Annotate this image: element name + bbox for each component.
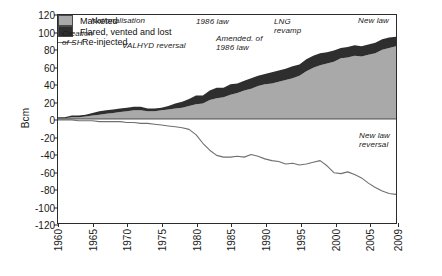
x-tick-label: 2009 <box>393 229 404 251</box>
x-tick-label: 1965 <box>88 229 99 251</box>
annotation-new-law: New law <box>358 16 389 25</box>
y-tick-label: -20 <box>41 132 55 143</box>
y-tick-label: -40 <box>41 150 55 161</box>
x-tick-mark <box>162 223 163 227</box>
x-tick-label: 1960 <box>53 229 64 251</box>
x-tick-label: 1970 <box>122 229 133 251</box>
y-tick-label: -60 <box>41 167 55 178</box>
x-tick-mark <box>231 223 232 227</box>
y-tick-label: 60 <box>44 62 55 73</box>
figure: Bcm 120100806040200-20-40-60-80-100-120 … <box>0 0 442 276</box>
x-tick-label: 1985 <box>226 229 237 251</box>
annotation-lng-revamp: LNG revamp <box>274 17 301 36</box>
annotation-creation-of-sh: Creation of SH <box>62 29 93 48</box>
y-tick-label: 100 <box>38 27 55 38</box>
x-tick-label: 1990 <box>261 229 272 251</box>
x-tick-mark <box>93 223 94 227</box>
y-tick-label: -120 <box>35 220 55 231</box>
annotation-nationalisation: Nationalisation <box>91 16 145 25</box>
y-tick-label: -100 <box>35 202 55 213</box>
line-re-injected <box>58 120 396 195</box>
x-tick-mark <box>370 223 371 227</box>
y-tick-label: -80 <box>41 185 55 196</box>
x-tick-label: 1980 <box>192 229 203 251</box>
y-tick-label: 120 <box>38 10 55 21</box>
annotation-valhyd-reversal: VALHYD reversal <box>122 41 186 50</box>
x-tick-mark <box>336 223 337 227</box>
annotation-1986-law: 1986 law <box>196 17 229 26</box>
x-tick-mark <box>127 223 128 227</box>
x-tick-mark <box>398 223 399 227</box>
x-tick-mark <box>301 223 302 227</box>
y-tick-label: 0 <box>49 115 55 126</box>
y-tick-label: 80 <box>44 45 55 56</box>
y-tick-label: 40 <box>44 80 55 91</box>
plot-area: 120100806040200-20-40-60-80-100-120 1960… <box>57 14 397 224</box>
annotation-amended-1986-law: Amended. of 1986 law <box>216 34 262 53</box>
x-tick-label: 1995 <box>296 229 307 251</box>
x-tick-mark <box>197 223 198 227</box>
x-tick-label: 2005 <box>365 229 376 251</box>
x-tick-mark <box>58 223 59 227</box>
x-tick-label: 1975 <box>157 229 168 251</box>
annotation-new-law-reversal: New law reversal <box>359 131 390 150</box>
y-tick-label: 20 <box>44 97 55 108</box>
x-tick-mark <box>266 223 267 227</box>
y-axis-title: Bcm <box>11 95 39 141</box>
x-tick-label: 2000 <box>331 229 342 251</box>
